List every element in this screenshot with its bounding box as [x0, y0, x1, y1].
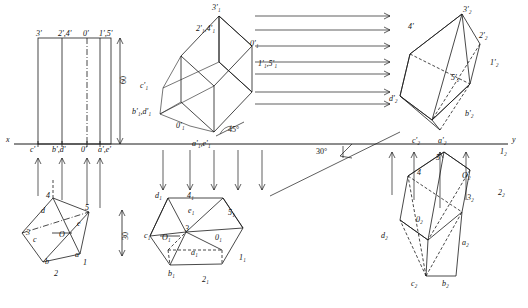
label-bp1dp1: b'₁,d'₁ [132, 108, 151, 116]
label-a-left: a [75, 251, 79, 259]
label-4-rt: 4 [417, 169, 421, 177]
label-41: 4₁ [187, 192, 194, 200]
label-3p1: 3'₁ [212, 4, 221, 12]
label-O-left: O [59, 231, 65, 239]
aux-front-face [181, 16, 252, 86]
label-ap1ep1: a'₁,e'₁ [192, 140, 211, 148]
angle-30-arrow [340, 144, 352, 158]
label-2-left: 2 [54, 270, 58, 278]
mid-line-5 [186, 228, 243, 232]
angle-30-ray [270, 132, 400, 196]
label-3p2: 3'₂ [463, 6, 472, 14]
dim-label-60: 60 [120, 76, 128, 84]
label-c1: c₁ [144, 232, 150, 240]
label-d1: d₁ [155, 192, 162, 200]
rb-edge-5 [400, 220, 428, 240]
label-5-left: 5 [85, 204, 89, 212]
label-2p4p: 2',4' [58, 30, 71, 38]
label-22: 2₂ [498, 189, 505, 197]
label-01: 0₁ [215, 234, 222, 242]
label-d-left: d [41, 207, 45, 215]
label-2p2: 2'₂ [479, 32, 488, 40]
label-d2: d₂ [381, 232, 388, 240]
aux-internal-5 [160, 102, 181, 114]
rt-edge-6 [462, 14, 470, 84]
label-dp2: d'₂ [389, 95, 398, 103]
label-32: 3₂ [467, 194, 474, 202]
rt-edge-4 [400, 54, 410, 96]
label-21: 2₁ [202, 276, 209, 284]
projection-drawing [0, 0, 528, 308]
label-51: 5₁ [228, 209, 235, 217]
label-12: 1₂ [500, 148, 507, 156]
label-c2: c₂ [411, 280, 417, 288]
label-4p: 4' [408, 23, 414, 31]
rb-edge-3 [408, 176, 462, 212]
label-cp1: c'₁ [140, 82, 148, 90]
label-axis-y: y [512, 136, 516, 144]
label-02: 0₂ [416, 216, 423, 224]
rt-edge-11 [432, 120, 440, 130]
label-cp2: c'₂ [412, 137, 420, 145]
aux-internal-3 [160, 88, 163, 114]
dim-label-30: 30 [122, 232, 130, 240]
label-0p1-top: 0'₁ [250, 40, 259, 48]
rt-edge-2 [432, 14, 462, 120]
label-1p5p: 1',5' [99, 30, 112, 38]
label-e1: e₁ [188, 207, 194, 215]
label-c-left: c [33, 236, 37, 244]
aux-internal-1 [163, 62, 219, 88]
mid-line-4 [168, 198, 186, 232]
label-bpdp: b',d' [52, 146, 65, 154]
aux-edge-5 [219, 62, 252, 92]
label-3-left: 3 [26, 229, 30, 237]
label-cp: c' [30, 146, 35, 154]
label-ap2: a'₂ [438, 137, 447, 145]
label-b-left: b [45, 258, 49, 266]
label-bp2: b'₂ [465, 110, 474, 118]
label-axis-x: x [6, 136, 10, 144]
label-e-left: e [77, 220, 81, 228]
transfer-arrows-down [160, 150, 265, 190]
label-1p2: 1'₂ [490, 59, 499, 67]
label-O1: O₁ [162, 234, 171, 242]
aux-edge-4 [181, 102, 214, 132]
drawing-canvas: 3' 2',4' 0' 1',5' c' b',d' 0' a',e' x y … [0, 0, 528, 308]
label-b1: b₁ [168, 270, 175, 278]
label-1-left: 1 [83, 259, 87, 267]
rt-edge-3 [410, 54, 470, 84]
aux-internal-7 [160, 114, 190, 126]
label-3p: 3' [36, 30, 42, 38]
label-1p15p1: 1'₁,5'₁ [258, 60, 277, 68]
label-apep: a',e' [98, 146, 111, 154]
label-4-left: 4 [46, 192, 50, 200]
right-bottom-solid [400, 152, 470, 240]
label-2p14p1: 2'₁,4'₁ [196, 25, 215, 33]
rt-edge-9 [440, 84, 470, 130]
label-a2: a₂ [462, 239, 469, 247]
mid-line-6 [170, 232, 186, 265]
rb-edge-8 [426, 240, 428, 276]
mid-line-3 [186, 198, 223, 232]
label-0p-base: 0' [81, 146, 87, 154]
label-angle-45: 45° [228, 126, 239, 134]
label-0p1-bot: 0'₁ [176, 122, 185, 130]
transfer-arrows-right-up [389, 152, 469, 208]
label-11: 1₁ [239, 254, 246, 262]
label-a1: a₁ [191, 249, 198, 257]
aux-internal-4 [163, 56, 181, 88]
label-O2: O₂ [462, 172, 471, 180]
label-b2: b₂ [442, 280, 449, 288]
label-5p2: 5'₂ [451, 74, 460, 82]
rt-edge-1 [410, 14, 462, 54]
aux-side-face [219, 16, 252, 92]
label-angle-30: 30° [316, 148, 327, 156]
rb-edge-11 [408, 176, 426, 276]
aux-internal-2 [160, 86, 214, 114]
label-5-rt: 5 [436, 154, 440, 162]
rb-edge-6 [400, 220, 426, 276]
label-0p-top: 0' [83, 30, 89, 38]
mid-inner-1 [150, 198, 168, 236]
label-3-mid: 3 [185, 225, 189, 233]
